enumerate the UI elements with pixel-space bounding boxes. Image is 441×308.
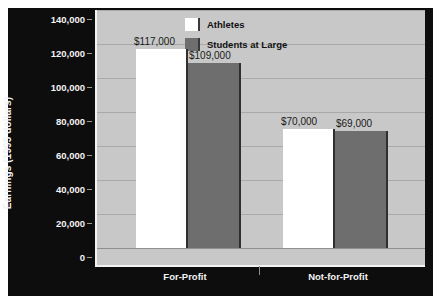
gridline-140000	[97, 10, 425, 11]
y-tick-80000: 80,000	[30, 116, 92, 128]
y-tick-mark	[87, 53, 92, 54]
y-tick-mark	[87, 87, 92, 88]
bar-forprofit-students-at-large[interactable]	[188, 63, 241, 248]
y-tick-label: 0	[80, 252, 85, 264]
y-tick-100000: 100,000	[30, 82, 92, 94]
chart-figure: Earnings (1995 dollars) 140,000 120,000 …	[0, 0, 441, 308]
y-axis-tick-labels: 140,000 120,000 100,000 80,000 60,000 40…	[30, 10, 92, 266]
y-tick-label: 60,000	[56, 150, 85, 162]
bar-label-forprofit-athletes: $117,000	[134, 36, 175, 48]
y-tick-mark	[87, 223, 92, 224]
y-tick-label: 100,000	[51, 82, 85, 94]
bar-label-notforprofit-athletes: $70,000	[281, 116, 317, 128]
x-axis-category-band: For-Profit Not-for-Profit	[95, 266, 425, 290]
gridline-0	[97, 248, 425, 249]
x-axis-category-separator	[259, 266, 260, 275]
y-tick-0: 0	[30, 252, 92, 264]
bar-notforprofit-athletes[interactable]	[283, 129, 335, 248]
bar-label-notforprofit-students-at-large: $69,000	[336, 118, 372, 130]
y-tick-label: 80,000	[56, 116, 85, 128]
x-category-label-for-profit: For-Profit	[125, 270, 245, 284]
x-category-label-not-for-profit: Not-for-Profit	[273, 270, 403, 284]
y-tick-mark	[87, 257, 92, 258]
legend-item-athletes[interactable]: Athletes	[185, 16, 335, 33]
y-tick-120000: 120,000	[30, 48, 92, 60]
y-tick-40000: 40,000	[30, 184, 92, 196]
y-tick-label: 20,000	[56, 218, 85, 230]
legend-swatch-athletes	[185, 18, 200, 31]
y-tick-mark	[87, 189, 92, 190]
y-tick-60000: 60,000	[30, 150, 92, 162]
y-tick-label: 120,000	[51, 48, 85, 60]
y-tick-mark	[87, 155, 92, 156]
y-tick-mark	[87, 121, 92, 122]
legend-label-athletes: Athletes	[207, 18, 244, 31]
y-tick-20000: 20,000	[30, 218, 92, 230]
y-tick-mark	[87, 19, 92, 20]
bar-label-forprofit-students-at-large: $109,000	[189, 50, 231, 62]
plot-area: Athletes Students at Large $117,000 $109…	[95, 10, 425, 266]
y-tick-label: 140,000	[51, 14, 85, 26]
bar-notforprofit-students-at-large[interactable]	[335, 131, 388, 248]
y-tick-label: 40,000	[56, 184, 85, 196]
y-tick-140000: 140,000	[30, 14, 92, 26]
bar-forprofit-athletes[interactable]	[136, 49, 188, 248]
y-axis-title: Earnings (1995 dollars)	[0, 68, 16, 238]
